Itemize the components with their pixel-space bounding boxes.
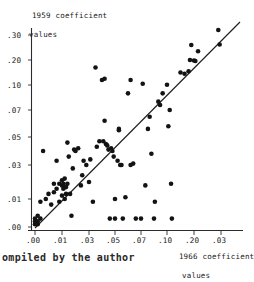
data-point [217,42,222,47]
figure-caption: ompiled by the author [2,252,135,264]
x-axis-label-line2: values [160,271,254,281]
data-point [188,58,193,63]
y-tick-label-5: .03 [7,161,21,170]
data-point [38,216,43,221]
data-point [113,216,118,221]
data-point [117,128,122,133]
data-point [196,49,201,54]
data-point [91,200,96,205]
data-point [71,166,76,171]
data-point [153,200,158,205]
x-axis [28,231,243,236]
x-tick-label-0: .00 [26,236,41,245]
x-tick-label-2: .03 [80,236,94,245]
data-point [66,154,71,159]
data-point [143,183,148,188]
data-point [95,145,100,150]
data-point [189,43,194,48]
y-tick-label-3: .07 [7,106,21,115]
data-point [35,222,40,227]
data-point [44,197,49,202]
data-point [134,216,139,221]
data-point [87,180,92,185]
data-point [178,70,183,75]
data-point [69,214,74,219]
y-tick-label-0: .30 [7,31,22,40]
data-point [170,216,175,221]
data-point [167,108,172,113]
data-point [182,71,187,76]
data-point [108,216,113,221]
data-point [147,114,152,119]
data-point [80,173,85,178]
data-point [146,127,151,132]
data-point [57,200,62,205]
y-tick-label-7: .00 [7,223,22,232]
data-point [54,187,59,192]
data-point [93,65,98,70]
data-point [49,202,54,207]
y-tick-label-4: .05 [7,133,21,142]
data-point [65,181,70,186]
y-tick-labels: .30 .20 .10 .07 .05 .03 .01 .00 [7,31,22,232]
data-point [54,159,59,164]
data-point [126,91,131,96]
data-point [160,91,165,96]
data-point [68,192,73,197]
data-point [139,216,144,221]
data-point [79,183,84,188]
data-point [84,163,89,168]
data-point [102,76,107,81]
data-point [152,216,157,221]
y-axis [28,28,32,231]
y-tick-label-1: .20 [7,56,22,65]
data-point [64,192,69,197]
data-point [65,140,70,145]
data-point [149,152,154,157]
data-point [121,216,126,221]
data-point [88,157,93,162]
data-point [105,143,110,148]
x-axis-label: 1966 coefficient values [160,242,254,282]
data-point [113,197,118,202]
data-point [76,146,81,151]
data-point [62,197,67,202]
data-point [216,28,221,33]
y-tick-label-2: .10 [7,81,22,90]
data-point [119,163,124,168]
data-point [128,78,133,83]
data-point [52,181,57,186]
data-point [38,200,43,205]
data-point [131,161,136,166]
x-tick-label-1: .01 [53,236,68,245]
data-point [193,59,198,64]
data-point [110,149,115,154]
data-point [166,124,171,129]
data-point [123,195,128,200]
data-point [158,103,163,108]
x-tick-label-4: .07 [132,236,146,245]
x-axis-label-line1: 1966 coefficient [179,252,254,261]
data-point [62,176,67,181]
data-point [165,82,170,87]
data-point [140,81,145,86]
x-tick-label-3: .05 [106,236,120,245]
data-point [111,154,116,159]
data-point [46,192,51,197]
data-point [169,181,174,186]
data-point [102,119,107,124]
data-point [115,159,120,164]
data-point [41,149,46,154]
data-point [81,159,86,164]
y-tick-label-6: .01 [7,195,22,204]
data-points-layer [33,28,222,227]
data-point [186,69,191,74]
